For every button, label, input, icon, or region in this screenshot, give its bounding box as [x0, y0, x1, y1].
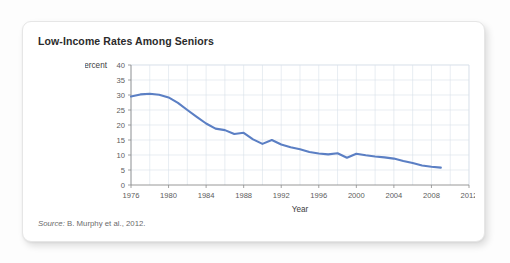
x-tick-label: 2000 — [348, 191, 365, 200]
x-tick-label: 1996 — [310, 191, 327, 200]
y-tick-label: 0 — [121, 181, 125, 190]
x-tick-label: 2012 — [461, 191, 475, 200]
screenshot-root: Low-Income Rates Among Seniors 051015202… — [0, 0, 510, 263]
source-note: Source: B. Murphy et al., 2012. — [38, 219, 146, 228]
x-axis-title: Year — [292, 205, 309, 214]
y-tick-label: 10 — [117, 151, 125, 160]
y-tick-label: 30 — [117, 91, 125, 100]
figure-card: Low-Income Rates Among Seniors 051015202… — [22, 21, 485, 242]
y-tick-label: 20 — [117, 121, 125, 130]
x-tick-label: 2004 — [385, 191, 402, 200]
y-tick-label: 5 — [121, 166, 125, 175]
x-tick-label: 1992 — [273, 191, 290, 200]
source-text: B. Murphy et al., 2012. — [65, 219, 146, 228]
y-tick-label: 15 — [117, 136, 125, 145]
x-tick-label: 1980 — [160, 191, 177, 200]
data-series-line-0 — [131, 94, 441, 168]
source-label: Source: — [38, 219, 65, 228]
y-tick-label: 25 — [117, 106, 125, 115]
x-tick-label: 2008 — [423, 191, 440, 200]
y-tick-label: 40 — [117, 61, 125, 70]
line-chart-svg: 0510152025303540Percent19761980198419881… — [85, 59, 475, 219]
chart-title: Low-Income Rates Among Seniors — [38, 35, 214, 47]
chart-area: 0510152025303540Percent19761980198419881… — [85, 59, 475, 219]
y-tick-label: 35 — [117, 76, 125, 85]
y-axis-title: Percent — [85, 61, 108, 70]
x-tick-label: 1984 — [198, 191, 215, 200]
x-tick-label: 1988 — [235, 191, 252, 200]
x-tick-label: 1976 — [123, 191, 140, 200]
